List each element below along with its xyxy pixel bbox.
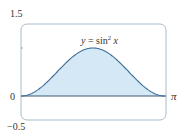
- y-tick-label-top: 1.5: [10, 8, 23, 19]
- function-label-x: x: [111, 35, 119, 46]
- x-tick-label-pi: π: [171, 90, 177, 102]
- y-tick-label-bottom: −0.5: [7, 121, 25, 132]
- function-label-eq: = sin: [85, 35, 107, 46]
- sin-squared-plot: 1.5 0 −0.5 π y = sin2 x: [0, 0, 187, 139]
- function-label: y = sin2 x: [80, 34, 119, 46]
- y-tick-label-zero: 0: [10, 91, 15, 102]
